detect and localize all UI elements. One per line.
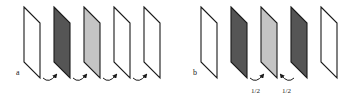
pane (261, 7, 277, 78)
pane (201, 7, 217, 78)
pane (24, 7, 40, 78)
pane (144, 7, 160, 78)
panel-label-b: b (193, 68, 197, 77)
pane (231, 7, 247, 78)
diagram-canvas (0, 0, 352, 101)
transfer-fraction-label: 1/2 (251, 87, 260, 95)
curved-arrow-icon (250, 75, 263, 80)
pane (54, 7, 70, 78)
pane (114, 7, 130, 78)
transfer-fraction-label: 1/2 (282, 87, 291, 95)
curved-arrow-icon (281, 75, 294, 80)
panel-b (201, 7, 337, 80)
curved-arrow-icon (103, 75, 116, 80)
pane (291, 7, 307, 78)
panel-label-a: a (16, 68, 20, 77)
pane (84, 7, 100, 78)
diagram-layer (24, 7, 337, 80)
curved-arrow-icon (43, 75, 56, 80)
pane (321, 7, 337, 78)
panel-a (24, 7, 160, 80)
curved-arrow-icon (73, 75, 86, 80)
curved-arrow-icon (133, 75, 146, 80)
